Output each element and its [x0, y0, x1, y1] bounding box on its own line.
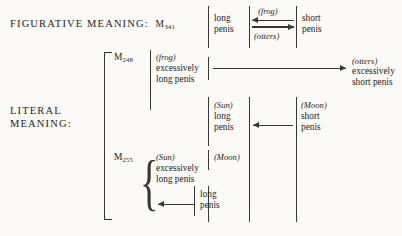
- m248-target-line1: excessively: [352, 66, 395, 77]
- column-rule-1-seg-b: [208, 57, 209, 80]
- column-rule-1-seg-d: [208, 150, 209, 170]
- literal-meaning-label-line1: LITERAL: [10, 105, 62, 116]
- fig-left-cell-line2: penis: [214, 24, 234, 35]
- outer-group-bracket: [104, 52, 112, 220]
- sunmoon-transform-arrow: [253, 122, 293, 129]
- bottom-cell-tick-rule: [194, 186, 195, 216]
- column-rule-3-seg-b: [296, 97, 297, 222]
- m248-target-agent: (otters): [352, 56, 377, 66]
- literal-meaning-label-line2: MEANING:: [10, 118, 72, 129]
- sunmoon-left-line2: penis: [214, 122, 234, 133]
- myth-label-255: M255: [114, 152, 133, 163]
- arrow-shaft: [252, 20, 294, 21]
- m255-right-agent: (Moon): [214, 152, 240, 162]
- myth-label-341: M341: [156, 19, 175, 29]
- sunmoon-right-line2: penis: [301, 122, 321, 133]
- arrow-head-left: [158, 201, 164, 207]
- m248-source-agent: (frog): [156, 52, 176, 62]
- sunmoon-left-agent: (Sun): [214, 100, 233, 110]
- arrow-head-left: [252, 17, 258, 23]
- fig-right-cell-line2: penis: [302, 24, 322, 35]
- figurative-meaning-text: FIGURATIVE MEANING:: [10, 18, 149, 29]
- column-rule-1-seg-a: [208, 6, 209, 48]
- fig-arrow-bottom-label: (otters): [254, 31, 279, 41]
- arrow-head-left: [253, 122, 259, 128]
- m248-transform-arrow: [213, 65, 346, 72]
- m255-left-agent: (Sun): [156, 152, 175, 162]
- sunmoon-left-line1: long: [214, 111, 231, 122]
- m248-column-rule: [150, 50, 151, 110]
- column-rule-2-seg-b: [249, 97, 250, 222]
- arrow-shaft: [213, 68, 346, 69]
- myth-number-248: 248: [122, 56, 133, 63]
- sunmoon-right-line1: short: [301, 111, 320, 122]
- m255-bottom-line1: long: [200, 189, 217, 200]
- figurative-meaning-label: FIGURATIVE MEANING: M341: [10, 18, 175, 30]
- diagram-canvas: FIGURATIVE MEANING: M341 LITERAL MEANING…: [0, 0, 402, 236]
- column-rule-1-seg-c: [208, 97, 209, 146]
- arrow-head-right: [288, 24, 294, 30]
- fig-arrow-right: [252, 24, 294, 31]
- sunmoon-right-agent: (Moon): [301, 100, 327, 110]
- m255-left-line2: long penis: [156, 174, 194, 185]
- fig-arrow-left: [252, 17, 294, 24]
- fig-right-cell-line1: short: [302, 13, 321, 24]
- arrow-head-right: [340, 65, 346, 71]
- m255-bottom-line2: penis: [200, 200, 220, 211]
- fig-arrow-top-label: (frog): [258, 6, 278, 16]
- m248-source-line2: long penis: [156, 74, 194, 85]
- myth-number-341: 341: [165, 23, 176, 30]
- myth-number-255: 255: [122, 156, 133, 163]
- fig-left-cell-line1: long: [214, 13, 231, 24]
- column-rule-3-seg-a: [296, 6, 297, 48]
- myth-m-glyph: M: [156, 19, 164, 29]
- arrow-shaft: [253, 125, 293, 126]
- myth-label-248: M248: [114, 52, 133, 63]
- m248-target-line2: short penis: [352, 77, 393, 88]
- m255-transform-arrow: [158, 201, 194, 208]
- column-rule-2-seg-a: [249, 6, 250, 48]
- m248-source-line1: excessively: [156, 63, 199, 74]
- m255-left-line1: excessively: [156, 163, 199, 174]
